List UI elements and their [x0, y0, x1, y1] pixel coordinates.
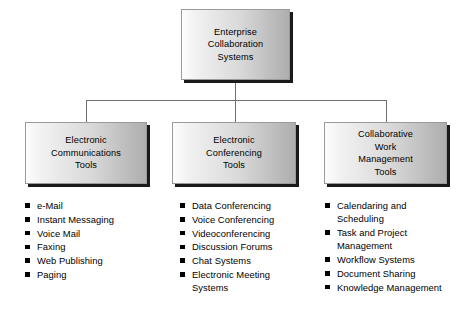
- list-item: Data Conferencing: [180, 199, 320, 212]
- list-item: Faxing: [25, 240, 165, 253]
- bullet-square-icon: [180, 258, 185, 263]
- list-item: e-Mail: [25, 199, 165, 212]
- list-item: Videoconferencing: [180, 227, 320, 240]
- list-item-label: Task and Project Management: [337, 226, 471, 252]
- list-electronic-communications-tools: e-MailInstant MessagingVoice MailFaxingW…: [25, 199, 165, 282]
- node-label: Collaborative Work Management Tools: [352, 128, 419, 178]
- connector-drop-conferencing: [235, 100, 236, 122]
- list-item-label: Knowledge Management: [337, 281, 471, 294]
- bullet-square-icon: [325, 271, 330, 276]
- list-item-label: Calendaring and Scheduling: [337, 199, 471, 225]
- node-label: Electronic Communications Tools: [45, 134, 127, 172]
- list-item-label: Voice Mail: [37, 227, 165, 240]
- bullet-square-icon: [180, 231, 185, 236]
- bullet-square-icon: [180, 245, 185, 250]
- bullet-square-icon: [325, 203, 330, 208]
- list-item: Workflow Systems: [325, 253, 471, 266]
- node-electronic-communications-tools[interactable]: Electronic Communications Tools: [25, 122, 147, 184]
- list-item: Knowledge Management: [325, 281, 471, 294]
- list-item: Paging: [25, 268, 165, 281]
- bullet-square-icon: [180, 217, 185, 222]
- list-item: Calendaring and Scheduling: [325, 199, 471, 225]
- bullet-square-icon: [325, 257, 330, 262]
- bullet-square-icon: [25, 245, 30, 250]
- list-item: Discussion Forums: [180, 240, 320, 253]
- list-item: Voice Mail: [25, 227, 165, 240]
- list-item-label: Instant Messaging: [37, 213, 165, 226]
- list-item-label: Voice Conferencing: [192, 213, 320, 226]
- connector-root-stem: [235, 80, 236, 100]
- node-label: Enterprise Collaboration Systems: [202, 26, 269, 64]
- list-item-label: Web Publishing: [37, 254, 165, 267]
- bullet-square-icon: [25, 258, 30, 263]
- list-item-label: Videoconferencing: [192, 227, 320, 240]
- list-item-label: Electronic Meeting Systems: [192, 268, 320, 294]
- list-item: Chat Systems: [180, 254, 320, 267]
- diagram-canvas: Enterprise Collaboration Systems Electro…: [0, 0, 471, 309]
- node-electronic-conferencing-tools[interactable]: Electronic Conferencing Tools: [172, 122, 296, 184]
- node-label: Electronic Conferencing Tools: [200, 134, 268, 172]
- bullet-square-icon: [325, 230, 330, 235]
- bullet-square-icon: [25, 272, 30, 277]
- list-item: Document Sharing: [325, 267, 471, 280]
- node-enterprise-collaboration-systems[interactable]: Enterprise Collaboration Systems: [181, 9, 290, 80]
- connector-drop-communications: [86, 100, 87, 122]
- list-item: Instant Messaging: [25, 213, 165, 226]
- list-item-label: Paging: [37, 268, 165, 281]
- list-item-label: Document Sharing: [337, 267, 471, 280]
- connector-drop-collaborative: [386, 100, 387, 122]
- list-item-label: Discussion Forums: [192, 240, 320, 253]
- list-item: Electronic Meeting Systems: [180, 268, 320, 294]
- list-electronic-conferencing-tools: Data ConferencingVoice ConferencingVideo…: [180, 199, 320, 295]
- list-item-label: Faxing: [37, 240, 165, 253]
- node-collaborative-work-management-tools[interactable]: Collaborative Work Management Tools: [324, 122, 447, 184]
- bullet-square-icon: [180, 203, 185, 208]
- list-collaborative-work-management-tools: Calendaring and SchedulingTask and Proje…: [325, 199, 471, 294]
- bullet-square-icon: [325, 285, 330, 290]
- bullet-square-icon: [25, 203, 30, 208]
- bullet-square-icon: [25, 217, 30, 222]
- list-item: Web Publishing: [25, 254, 165, 267]
- list-item-label: Data Conferencing: [192, 199, 320, 212]
- list-item: Task and Project Management: [325, 226, 471, 252]
- list-item-label: Chat Systems: [192, 254, 320, 267]
- connector-horizontal-bus: [86, 100, 386, 101]
- bullet-square-icon: [180, 272, 185, 277]
- list-item: Voice Conferencing: [180, 213, 320, 226]
- bullet-square-icon: [25, 231, 30, 236]
- list-item-label: e-Mail: [37, 199, 165, 212]
- list-item-label: Workflow Systems: [337, 253, 471, 266]
